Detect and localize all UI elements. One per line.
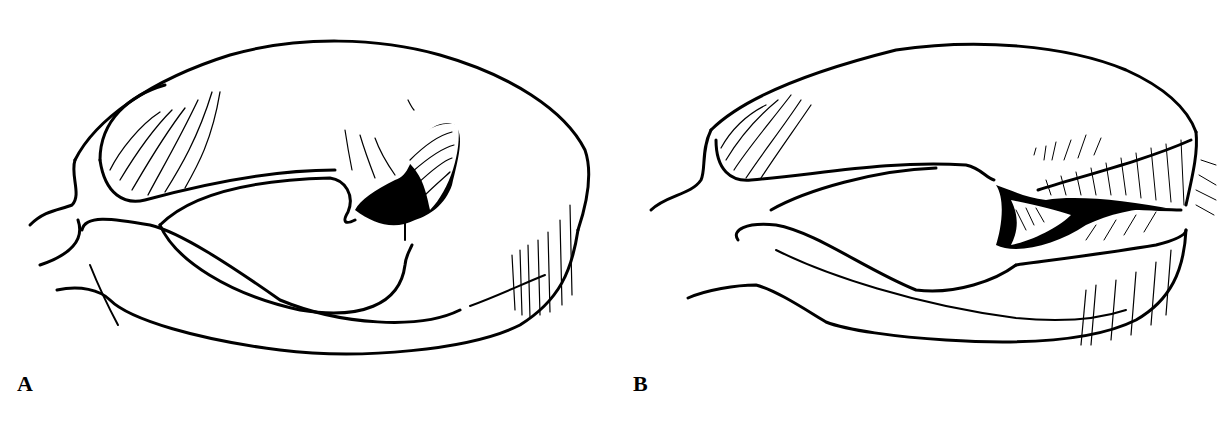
panel-b-illustration xyxy=(616,0,1232,421)
meniscus-drawing-a xyxy=(0,0,616,421)
hatching-upper-left xyxy=(721,95,811,178)
right-wall-hatching xyxy=(1081,250,1171,345)
right-wall-hatching xyxy=(512,205,572,318)
panel-a-illustration xyxy=(0,0,616,421)
hatching-upper-left xyxy=(110,92,220,195)
panel-label-a: A xyxy=(17,371,33,397)
meniscus-drawing-b xyxy=(616,0,1232,421)
panel-label-b: B xyxy=(633,371,648,397)
